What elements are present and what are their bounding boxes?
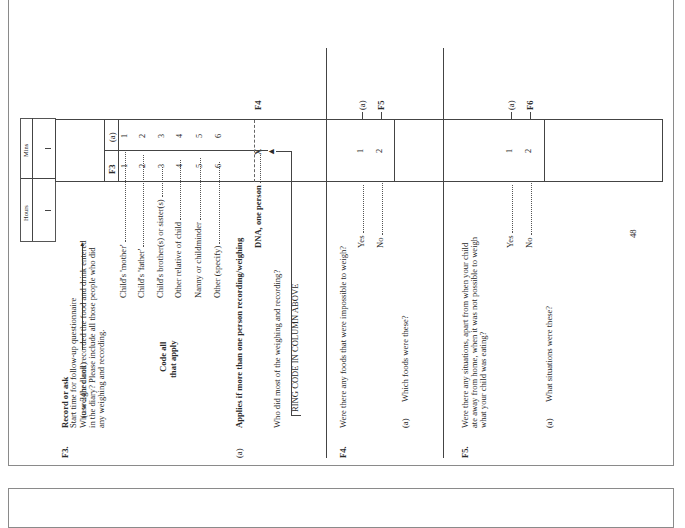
f3-instruction: Record or ask	[60, 377, 70, 428]
code-f3-1[interactable]: 1	[120, 159, 129, 173]
code-f3-4[interactable]: 4	[175, 159, 184, 173]
code-column-divider	[104, 150, 268, 151]
code-a-1[interactable]: 1	[120, 129, 129, 143]
arrow-up-icon: ▲	[266, 147, 276, 156]
f3-option-nanny[interactable]: Nanny or childminder	[193, 158, 203, 298]
f4-number: F4.	[338, 446, 348, 458]
col-header-a: (a)	[107, 132, 117, 142]
hours-label: Hours	[22, 205, 29, 221]
section-divider-f5	[443, 48, 444, 458]
code-a-4[interactable]: 4	[175, 129, 184, 143]
code-a-2[interactable]: 2	[138, 129, 147, 143]
code-f3-3[interactable]: 3	[157, 159, 166, 173]
f3a-label: (a)	[234, 448, 244, 458]
f3a-question: Who did most of the weighing and recordi…	[272, 270, 282, 428]
f3-option-father[interactable]: Child's 'father'	[136, 155, 146, 298]
col-header-f3: F3	[107, 164, 117, 174]
f5-code-1[interactable]: 1	[505, 144, 514, 158]
f5a-label: (a)	[544, 418, 554, 428]
f4-code-2[interactable]: 2	[375, 144, 384, 158]
f4a-question: Which foods were these?	[400, 315, 410, 402]
f4-question: Were there any foods that were impossibl…	[338, 246, 348, 428]
code-a-3[interactable]: 3	[157, 129, 166, 143]
time-entry-box[interactable]: Hours Mins	[20, 118, 56, 242]
f5-option-no[interactable]: No	[524, 183, 534, 248]
code-column-left-border	[55, 181, 663, 182]
code-note-line1: Code all	[158, 342, 168, 372]
next-page-frame	[8, 488, 674, 528]
f3-option-mother[interactable]: Child's 'mother'	[118, 152, 128, 298]
f3a-applies: Applies if more than one person recordin…	[234, 238, 244, 428]
f5-route-f6: F6	[525, 100, 535, 110]
f3-question-line3: any weighing and recording.	[96, 330, 106, 428]
f4-route-f5: F5	[376, 100, 386, 110]
ring-arrow-line	[291, 152, 292, 416]
f5-number: F5.	[460, 446, 470, 458]
f4-route-a: (a)	[357, 100, 367, 110]
f3-option-other-specify[interactable]: Other (specify)	[212, 162, 222, 298]
questionnaire-page: Start time for follow-up questionnaire (…	[8, 0, 676, 468]
code-a-6[interactable]: 6	[214, 129, 223, 143]
page-number: 48	[628, 229, 638, 238]
f4-code-1[interactable]: 1	[356, 144, 365, 158]
f5-code-2[interactable]: 2	[524, 144, 533, 158]
code-f3-6[interactable]: 6	[214, 159, 223, 173]
f4-option-no[interactable]: No	[375, 183, 385, 248]
section-divider-f4	[326, 48, 327, 458]
f5-question-line3: what your child was eating?	[478, 332, 488, 428]
f3-option-siblings[interactable]: Child's brother(s) or sister(s)	[155, 167, 165, 298]
code-note-line2: that apply	[168, 341, 178, 379]
code-column-right-border	[55, 119, 663, 120]
f4a-label: (a)	[400, 418, 410, 428]
code-f3-2[interactable]: 2	[138, 159, 147, 173]
f5a-question: What situations were these?	[544, 306, 554, 402]
f4-option-yes[interactable]: Yes	[356, 185, 366, 248]
f5-option-yes[interactable]: Yes	[505, 185, 515, 248]
mins-label: Mins	[22, 144, 29, 157]
route-f4: F4	[253, 100, 263, 110]
code-a-5[interactable]: 5	[195, 129, 204, 143]
f3-number: F3.	[60, 446, 70, 458]
f5-route-a: (a)	[506, 100, 516, 110]
code-f3-5[interactable]: 5	[195, 159, 204, 173]
